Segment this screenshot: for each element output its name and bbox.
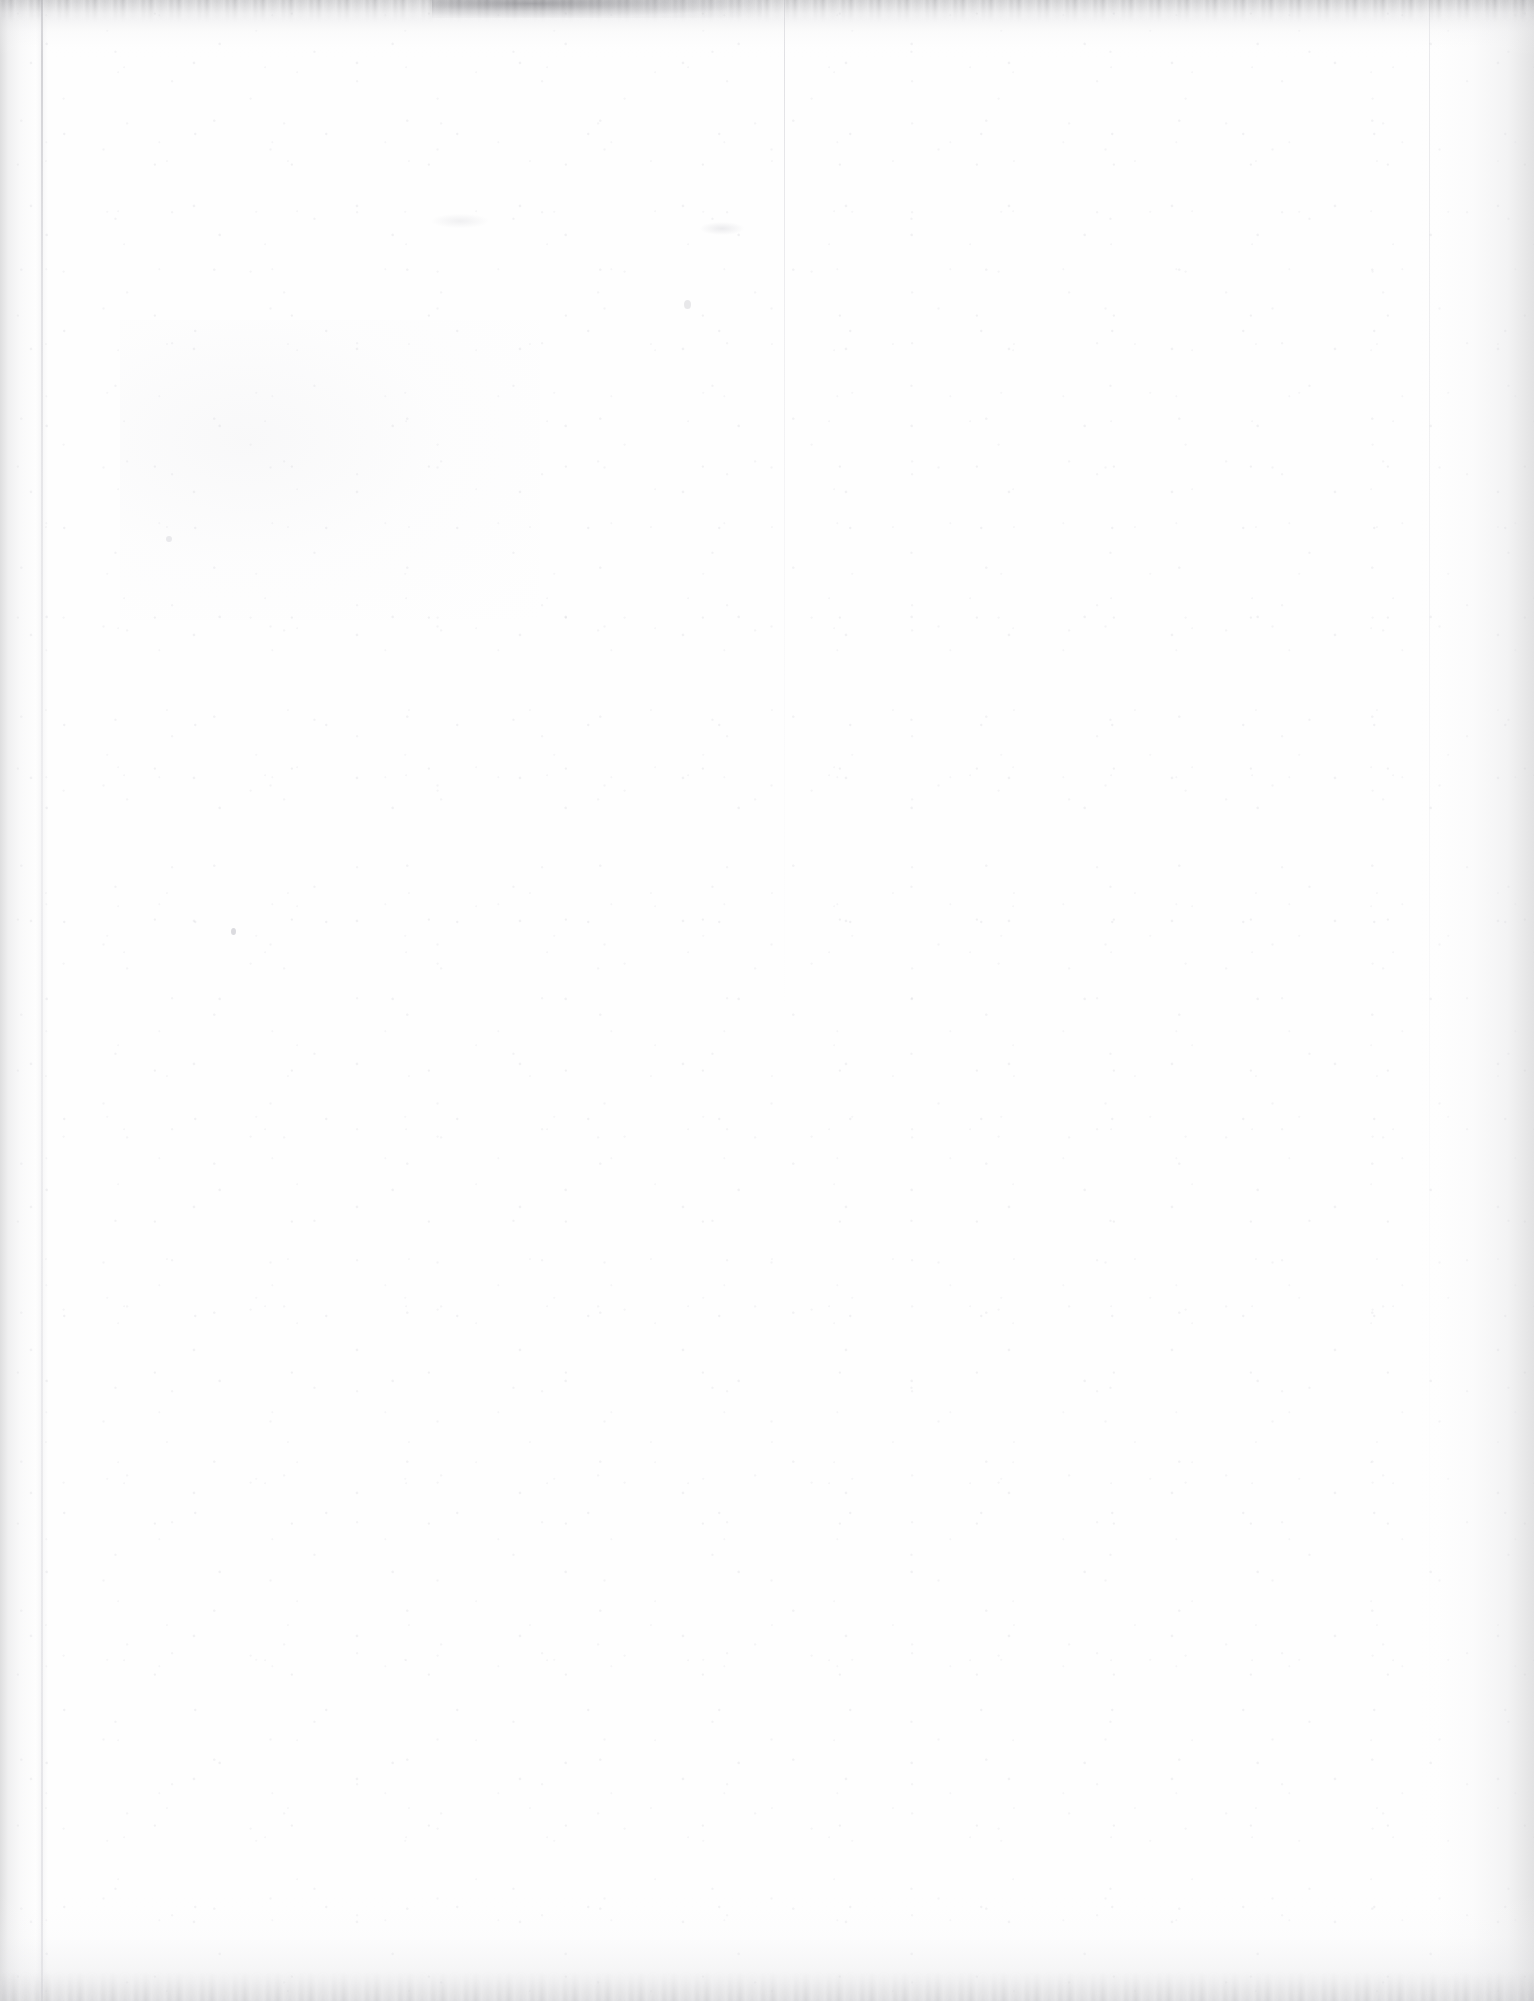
scanned-page xyxy=(0,0,1534,2001)
page-content-area xyxy=(0,0,1534,2001)
